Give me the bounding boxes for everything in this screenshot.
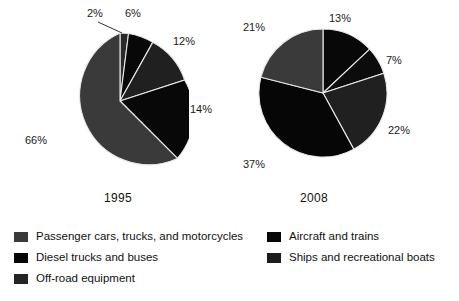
pie-2008-label-21pct: 21% <box>243 22 265 33</box>
pie-chart-1995 <box>51 32 189 170</box>
pie-chart-figure: 2% 6% 12% 14% 66% 1995 13% 7% 22% 37% 21… <box>0 0 459 301</box>
legend-item-passenger-cars: Passenger cars, trucks, and motorcycles <box>14 228 243 245</box>
legend-label-offroad-equipment: Off-road equipment <box>36 273 135 285</box>
legend-item-diesel-trucks: Diesel trucks and buses <box>14 249 243 266</box>
pie-1995-leader-2pct <box>96 18 130 38</box>
chart-legend: Passenger cars, trucks, and motorcycles … <box>14 228 454 290</box>
pie-2008-year: 2008 <box>300 191 328 205</box>
pie-2008-label-13pct: 13% <box>329 13 351 24</box>
pie-2008-label-7pct: 7% <box>386 55 402 66</box>
legend-label-aircraft-trains: Aircraft and trains <box>289 231 379 243</box>
legend-item-offroad-equipment: Off-road equipment <box>14 270 243 287</box>
legend-swatch-passenger-cars <box>14 232 28 242</box>
pie-2008-svg <box>258 28 388 158</box>
legend-column-right: Aircraft and trains Ships and recreation… <box>267 228 435 270</box>
pie-1995-svg <box>51 32 189 170</box>
legend-swatch-ships-boats <box>267 253 281 263</box>
legend-label-diesel-trucks: Diesel trucks and buses <box>36 252 158 264</box>
legend-item-ships-boats: Ships and recreational boats <box>267 249 435 266</box>
pie-1995-year: 1995 <box>104 191 132 205</box>
legend-swatch-diesel-trucks <box>14 253 28 263</box>
pie-1995-label-6pct: 6% <box>125 8 141 19</box>
legend-column-left: Passenger cars, trucks, and motorcycles … <box>14 228 243 291</box>
legend-swatch-offroad-equipment <box>14 274 28 284</box>
legend-label-ships-boats: Ships and recreational boats <box>289 252 435 264</box>
pie-2008-label-22pct: 22% <box>388 125 410 136</box>
pie-1995-label-2pct: 2% <box>87 8 103 19</box>
legend-swatch-aircraft-trains <box>267 232 281 242</box>
pie-1995-label-66pct: 66% <box>25 135 47 146</box>
pie-1995-label-14pct: 14% <box>190 104 212 115</box>
pie-1995-label-12pct: 12% <box>173 36 195 47</box>
pie-2008-label-37pct: 37% <box>243 159 265 170</box>
legend-item-aircraft-trains: Aircraft and trains <box>267 228 435 245</box>
legend-label-passenger-cars: Passenger cars, trucks, and motorcycles <box>36 231 243 243</box>
pie-chart-2008 <box>258 28 388 158</box>
